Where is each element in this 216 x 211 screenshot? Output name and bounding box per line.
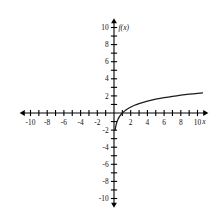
- x-tick-label: 6: [162, 118, 166, 127]
- x-axis-left-arrowhead: [20, 110, 25, 116]
- y-axis-down-arrowhead: [111, 203, 117, 208]
- x-tick-label: 2: [129, 118, 133, 127]
- x-axis-label: x: [201, 117, 206, 126]
- coordinate-plane: -10-8-6-4-2246810 108642-2-4-6-8-10 f(x)…: [0, 0, 216, 211]
- y-tick-label: -4: [102, 143, 108, 152]
- y-tick-label: 4: [105, 74, 109, 83]
- y-tick-label: -10: [99, 194, 109, 203]
- y-tick-label: 6: [105, 57, 109, 66]
- x-tick-label: 10: [194, 118, 202, 127]
- x-tick-label: 8: [179, 118, 183, 127]
- y-tick-label: -8: [102, 177, 108, 186]
- y-tick-label: -6: [102, 160, 108, 169]
- x-axis-right-arrowhead: [203, 110, 208, 116]
- y-tick-label: 10: [101, 23, 109, 32]
- x-tick-label: -2: [94, 118, 100, 127]
- logarithmic-function-graph: -10-8-6-4-2246810 108642-2-4-6-8-10 f(x)…: [0, 0, 216, 211]
- x-tick-label: -8: [44, 118, 50, 127]
- x-tick-label: 4: [146, 118, 150, 127]
- x-tick-label: -6: [61, 118, 67, 127]
- y-axis-label: f(x): [119, 23, 130, 32]
- y-tick-label: 2: [105, 92, 109, 101]
- y-tick-label: -2: [102, 126, 108, 135]
- x-tick-label: -10: [26, 118, 36, 127]
- x-tick-label: -4: [78, 118, 84, 127]
- y-axis-up-arrowhead: [111, 18, 117, 23]
- y-tick-label: 8: [105, 40, 109, 49]
